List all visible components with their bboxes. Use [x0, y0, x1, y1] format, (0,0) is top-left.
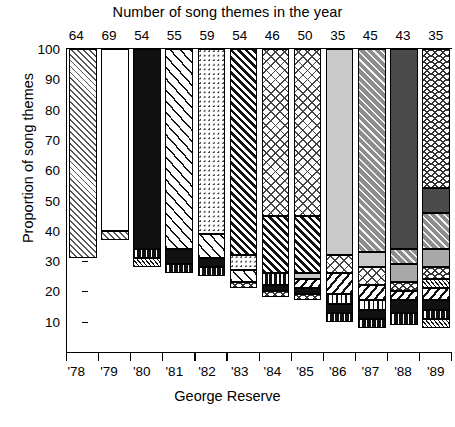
x-axis-title: George Reserve [0, 388, 455, 404]
x-axis-tick-mark [66, 353, 67, 361]
bar-segment [133, 249, 161, 258]
x-axis-tick-mark [98, 353, 99, 361]
bar-segment [294, 49, 322, 216]
bar-segment [326, 49, 354, 255]
x-axis-tick-label: '81 [158, 364, 191, 382]
top-axis-value: 59 [191, 28, 224, 46]
x-axis-tick-label: '82 [191, 364, 224, 382]
bar-88 [390, 49, 418, 352]
x-axis-tick-label: '79 [93, 364, 126, 382]
bar-segment [326, 294, 354, 303]
x-axis-tick-mark [194, 353, 195, 361]
x-axis-tick-mark [259, 353, 260, 361]
bar-segment [230, 49, 258, 255]
bar-81 [165, 49, 193, 352]
x-axis-tick-label: '86 [321, 364, 354, 382]
top-axis-value: 55 [158, 28, 191, 46]
x-axis-tick-label: '87 [354, 364, 387, 382]
top-axis-value: 46 [256, 28, 289, 46]
bar-segment [422, 213, 450, 249]
bar-segment [326, 273, 354, 294]
y-axis-tick-label: 50 [26, 193, 60, 208]
x-axis-tick-mark [451, 353, 452, 361]
bar-segment [390, 300, 418, 312]
bar-segment [358, 252, 386, 267]
bar-segment [390, 313, 418, 325]
top-axis-value: 54 [125, 28, 158, 46]
bar-segment [326, 304, 354, 313]
bar-segment [198, 234, 226, 258]
bar-segment [230, 282, 258, 288]
top-axis-value: 69 [93, 28, 126, 46]
x-axis-tick-label: '80 [125, 364, 158, 382]
bar-segment [326, 313, 354, 322]
bar-segment [390, 264, 418, 282]
bar-segment [198, 258, 226, 267]
x-axis-tick-mark [355, 353, 356, 361]
bar-segment [262, 216, 290, 274]
bar-segment [422, 249, 450, 267]
bar-80 [133, 49, 161, 352]
top-axis-value: 35 [419, 28, 452, 46]
x-axis-tick-mark [226, 353, 227, 361]
bar-segment [133, 258, 161, 267]
chart-root: Number of song themes in the year 646954… [0, 0, 455, 427]
x-axis-tick-label: '85 [289, 364, 322, 382]
bar-segment [69, 49, 97, 258]
bar-84 [262, 49, 290, 352]
x-axis-tick-label: '89 [419, 364, 452, 382]
bar-83 [230, 49, 258, 352]
bar-86 [326, 49, 354, 352]
y-axis-tick-labels: 102030405060708090100 [22, 45, 60, 351]
y-axis-tick-label: 70 [26, 132, 60, 147]
bar-segment [101, 49, 129, 231]
bar-78 [69, 49, 97, 352]
bar-82 [198, 49, 226, 352]
top-axis-title: Number of song themes in the year [0, 4, 455, 20]
top-axis-value: 45 [354, 28, 387, 46]
top-axis-value: 64 [60, 28, 93, 46]
top-axis-value: 43 [387, 28, 420, 46]
bar-segment [422, 288, 450, 300]
x-axis-tick-mark [291, 353, 292, 361]
bar-segment [390, 49, 418, 249]
y-axis-tick-label: 20 [26, 284, 60, 299]
x-axis-tick-mark [419, 353, 420, 361]
y-axis-tick-label: 10 [26, 314, 60, 329]
bar-89 [422, 49, 450, 352]
x-axis-ticks [66, 353, 452, 362]
bar-segment [230, 255, 258, 270]
bar-85 [294, 49, 322, 352]
bar-segment [358, 267, 386, 285]
x-axis-tick-label: '83 [223, 364, 256, 382]
bar-segment [390, 291, 418, 300]
bar-segment [422, 300, 450, 309]
bar-segment [358, 285, 386, 300]
x-axis-tick-label: '78 [60, 364, 93, 382]
y-axis-tick-label: 40 [26, 223, 60, 238]
bar-segment [422, 188, 450, 212]
plot-area [67, 49, 452, 352]
top-axis-value: 50 [289, 28, 322, 46]
bar-segment [422, 49, 450, 188]
bar-segment [422, 279, 450, 288]
bar-segment [262, 49, 290, 216]
bar-segment [198, 267, 226, 276]
x-axis-tick-label: '84 [256, 364, 289, 382]
bar-segment [422, 310, 450, 319]
y-axis-tick-label: 80 [26, 102, 60, 117]
bar-segment [165, 264, 193, 273]
bar-segment [294, 216, 322, 274]
bar-87 [358, 49, 386, 352]
bar-segment [390, 282, 418, 291]
bar-segment [133, 49, 161, 249]
bar-segment [390, 249, 418, 264]
x-axis-tick-mark [323, 353, 324, 361]
bar-segment [422, 267, 450, 279]
bar-segment [165, 49, 193, 249]
y-axis-tick-label: 90 [26, 72, 60, 87]
bar-segment [198, 49, 226, 234]
x-axis-tick-mark [387, 353, 388, 361]
x-axis-tick-mark [162, 353, 163, 361]
bar-segment [262, 291, 290, 297]
